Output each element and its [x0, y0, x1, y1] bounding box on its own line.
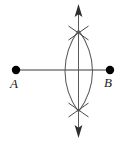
point-a-label: A: [10, 77, 18, 90]
geometry-figure: A B: [0, 0, 124, 141]
point-b-label: B: [104, 76, 112, 89]
point-a-dot: [12, 66, 20, 74]
arc-from-b: [65, 30, 79, 112]
point-b-dot: [106, 66, 114, 74]
construction-diagram: [0, 0, 124, 141]
arc-from-a: [79, 30, 93, 112]
